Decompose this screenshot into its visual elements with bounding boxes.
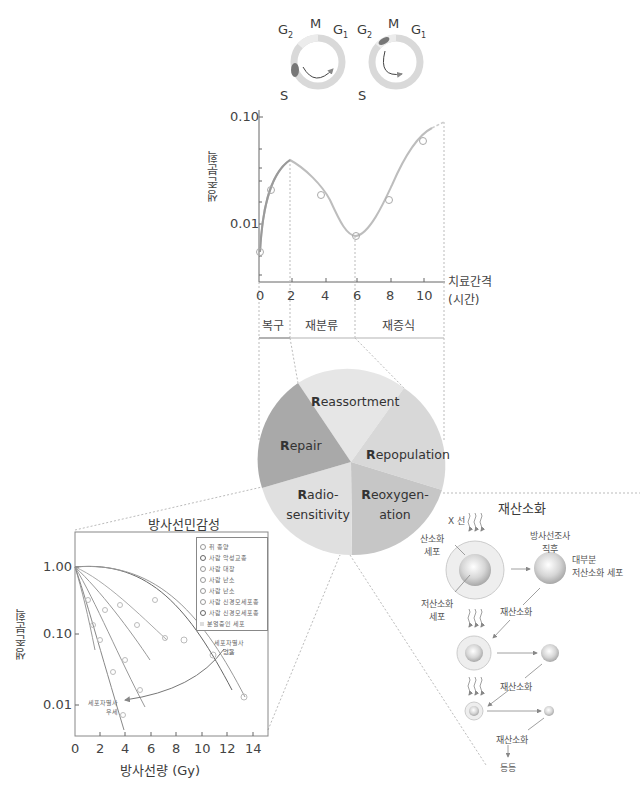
- left-chart-title: 방사선민감성: [148, 514, 220, 533]
- xtick: 8: [386, 288, 394, 303]
- left-chart-ylabel: 생존분획: [12, 608, 29, 660]
- left-chart-xlabel: 방사선량 (Gy): [120, 760, 200, 779]
- ytick-1-00: 1.00: [43, 559, 72, 574]
- cell-cluster-icon: [291, 63, 299, 77]
- xtick: 12: [219, 741, 236, 756]
- pie-label-repopulation: Repopulation: [366, 445, 450, 465]
- xtick: 8: [172, 741, 180, 756]
- xtick: 14: [245, 741, 262, 756]
- ytick-0-01: 0.01: [43, 697, 72, 712]
- post-irradiation-label: 방사선조사직후: [530, 529, 570, 555]
- reoxygenation-step-label: 재산소화: [496, 733, 528, 746]
- phase-m-label: M: [388, 16, 399, 31]
- hypoxic-cell-label: 저산소화세포: [421, 597, 453, 623]
- ytick-0-10: 0.10: [43, 626, 72, 641]
- left-chart-legend: 쥐 종양 사람 악성교종 사람 대장 사람 난소 사람 난소 사람 신경모세포종…: [196, 537, 268, 631]
- xtick: 0: [71, 741, 79, 756]
- xtick: 4: [321, 288, 329, 303]
- reoxygenation-title: 재산소화: [498, 498, 546, 517]
- cell-cycle-circle-2: [372, 35, 420, 86]
- xtick: 4: [121, 741, 129, 756]
- top-chart-xlabel-unit: (시간): [448, 290, 479, 307]
- legend-item: 분열중인 세포: [200, 618, 264, 629]
- phase-repopulation-label: 재증식: [382, 316, 415, 333]
- reoxygenation-step-label: 재산소화: [500, 605, 532, 618]
- phase-g1-label: G1: [333, 22, 348, 40]
- phase-s-label: S: [280, 88, 288, 103]
- legend-item: 사람 난소: [200, 574, 264, 585]
- legend-item: 사람 악성교종: [200, 552, 264, 563]
- phase-m-label: M: [310, 16, 321, 31]
- phase-g2-label: G2: [357, 22, 372, 40]
- pie-label-reoxygenation: Reoxygen-ation: [357, 485, 433, 525]
- top-chart: [257, 110, 446, 338]
- pie-label-radiosensitivity: Radio-sensitivity: [282, 485, 354, 525]
- legend-item: 사람 신경모세포종: [200, 607, 264, 618]
- etc-label: 등등: [500, 761, 516, 774]
- reoxygenation-step-label: 재산소화: [500, 680, 532, 693]
- xtick: 6: [353, 288, 361, 303]
- pie-label-reassortment: Reassortment: [311, 392, 399, 412]
- phase-g1-label: G1: [411, 22, 426, 40]
- xtick: 10: [416, 288, 433, 303]
- ytick-0-10: 0.10: [230, 109, 259, 124]
- legend-item: 사람 대장: [200, 563, 264, 574]
- ytick-0-01: 0.01: [230, 216, 259, 231]
- oxic-cell-label: 산소화세포: [420, 532, 444, 558]
- top-chart-ylabel: 생존분획: [204, 150, 221, 202]
- annotation-apoptosis-dominant: 세포자멸사우세: [88, 698, 118, 716]
- xray-label: X 선: [448, 514, 465, 527]
- legend-item: 사람 난소: [200, 585, 264, 596]
- pie-label-repair: Repair: [280, 436, 322, 456]
- xtick: 10: [194, 741, 211, 756]
- phase-reassortment-label: 재분류: [305, 316, 338, 333]
- xtick: 2: [96, 741, 104, 756]
- cell-cycle-circle-1: [291, 38, 342, 86]
- legend-item: 쥐 종양: [200, 541, 264, 552]
- phase-s-label: S: [358, 88, 366, 103]
- xtick: 0: [256, 288, 264, 303]
- legend-item: 사람 신경모세포종: [200, 596, 264, 607]
- xtick: 2: [287, 288, 295, 303]
- xtick: 6: [147, 741, 155, 756]
- phase-repair-label: 복구: [262, 316, 284, 333]
- mostly-hypoxic-label: 대부분저산소화 세포: [572, 553, 623, 579]
- annotation-no-apoptosis: 세포자멸사없음: [214, 638, 244, 656]
- phase-g2-label: G2: [278, 22, 293, 40]
- top-chart-xlabel: 치료간격: [448, 272, 492, 289]
